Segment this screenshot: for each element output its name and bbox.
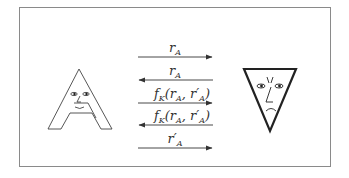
participant-b-figure bbox=[244, 69, 296, 131]
inverted-triangle-outline bbox=[244, 69, 296, 131]
letter-a-crossbar bbox=[74, 103, 96, 118]
message-3-label: fK(rA, r′A) bbox=[154, 87, 210, 103]
message-4-label: fK(rA, r′A) bbox=[154, 109, 210, 125]
smiling-face-icon bbox=[71, 92, 89, 108]
message-2-label: rA bbox=[169, 64, 181, 80]
frowning-face-icon bbox=[257, 77, 283, 111]
letter-a-outline bbox=[48, 69, 112, 129]
message-5-label: r′A bbox=[168, 132, 183, 148]
message-1-label: rA bbox=[169, 41, 181, 57]
participant-a-figure bbox=[48, 69, 112, 129]
